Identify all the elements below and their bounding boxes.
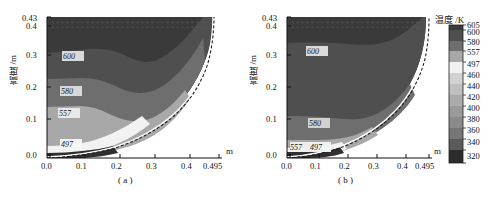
panel-b-ytick-4: 0.1 (266, 114, 277, 124)
panel-b-ytick-5: 0.0 (266, 150, 277, 160)
colorbar-ticks (463, 25, 466, 163)
panel-a-xtick-3: 0.3 (146, 161, 157, 171)
panel-b-ytick-3: 0.2 (266, 82, 277, 92)
colorbar-tick-340: 340 (467, 138, 480, 147)
colorbar-tick-497: 497 (467, 60, 480, 69)
colorbar-band-12 (449, 150, 463, 163)
panel-a-xtick-2: 0.2 (111, 161, 122, 171)
panel-a-xtick-5: 0.495 (203, 161, 222, 171)
colorbar-tick-440: 440 (467, 82, 480, 91)
colorbar-band-7 (449, 95, 463, 106)
colorbar-title: 温度 /K (435, 13, 464, 26)
panel-b-xtick-0: 0.0 (281, 161, 292, 171)
panel-b-label-580: 580 (309, 119, 321, 128)
colorbar: 温度 /K (430, 0, 493, 200)
panel-a-label-557: 557 (59, 109, 72, 118)
colorbar-swatches (430, 0, 493, 200)
colorbar-tick-400: 400 (467, 104, 480, 113)
panel-b-label-557: 557 (290, 143, 303, 152)
panel-a-ytick-3: 0.2 (26, 82, 37, 92)
panel-a-caption: ( a ) (118, 175, 133, 185)
colorbar-band-11 (449, 139, 463, 150)
panel-a-texture-band (47, 20, 207, 28)
panel-a-ytick-1: 0.4 (26, 21, 37, 31)
panel-b-y-axis-label: 高度 /m (246, 55, 259, 85)
colorbar-tick-580: 580 (467, 38, 480, 47)
panel-a: 高度 /m 0.43 0.4 0.3 0.2 0.1 0.0 (0, 0, 240, 200)
panel-b-label-497: 497 (310, 143, 323, 152)
colorbar-band-2 (449, 41, 463, 51)
panel-a-ytick-4: 0.1 (26, 114, 37, 124)
panel-b-xtick-4: 0.4 (397, 161, 408, 171)
colorbar-band-8 (449, 106, 463, 117)
panel-a-label-580: 580 (61, 87, 73, 96)
panel-a-x-unit: m (226, 146, 233, 156)
colorbar-band-1 (449, 30, 463, 41)
colorbar-tick-380: 380 (467, 115, 480, 124)
panel-b: 高度 /m 0.43 0.4 0.3 0.2 0.1 0.0 (240, 0, 440, 200)
figure-container: 高度 /m 0.43 0.4 0.3 0.2 0.1 0.0 (0, 0, 493, 200)
panel-a-label-600: 600 (63, 52, 75, 61)
colorbar-band-6 (449, 84, 463, 95)
colorbar-band-9 (449, 117, 463, 128)
panel-a-xtick-0: 0.0 (41, 161, 52, 171)
panel-a-y-axis-label: 高度 /m (6, 55, 19, 85)
panel-b-xtick-2: 0.2 (339, 161, 350, 171)
colorbar-band-5 (449, 73, 463, 84)
panel-a-xtick-4: 0.4 (181, 161, 192, 171)
panel-b-xtick-1: 0.1 (310, 161, 321, 171)
colorbar-tick-320: 320 (467, 152, 480, 161)
colorbar-tick-460: 460 (467, 71, 480, 80)
panel-b-ytick-1: 0.4 (266, 21, 277, 31)
colorbar-tick-600: 600 (467, 28, 480, 37)
colorbar-band-4 (449, 62, 463, 73)
panel-a-label-497: 497 (61, 140, 74, 149)
colorbar-tick-420: 420 (467, 93, 480, 102)
colorbar-band-3 (449, 51, 463, 62)
panel-b-caption: ( b ) (338, 175, 353, 185)
colorbar-tick-557: 557 (467, 48, 480, 57)
panel-a-ytick-5: 0.0 (26, 150, 37, 160)
panel-a-xtick-1: 0.1 (76, 161, 87, 171)
panel-b-label-600: 600 (307, 47, 319, 56)
colorbar-band-10 (449, 128, 463, 139)
panel-b-ytick-2: 0.3 (266, 50, 277, 60)
colorbar-band-group (449, 25, 463, 163)
panel-a-ytick-2: 0.3 (26, 50, 37, 60)
panel-b-xtick-3: 0.3 (368, 161, 379, 171)
colorbar-tick-360: 360 (467, 126, 480, 135)
panel-b-texture-band (287, 20, 422, 28)
